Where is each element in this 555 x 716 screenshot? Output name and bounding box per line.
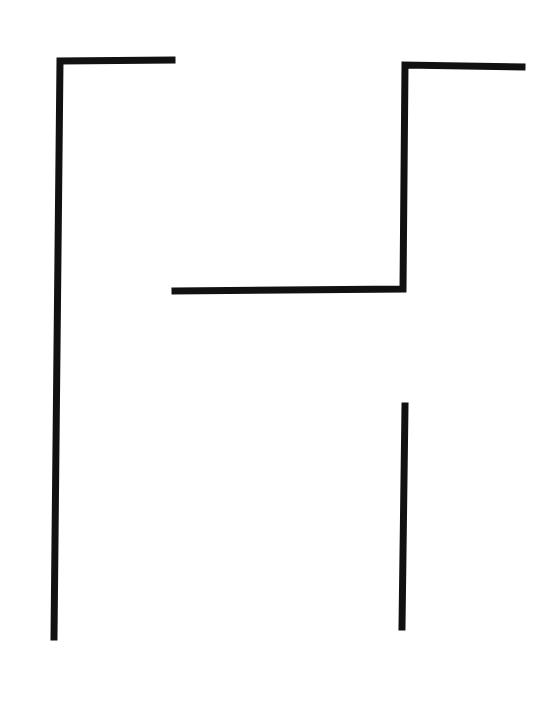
right-lower-bar-stroke [402, 406, 405, 627]
figure-background [0, 0, 555, 716]
line-figure [0, 0, 555, 716]
